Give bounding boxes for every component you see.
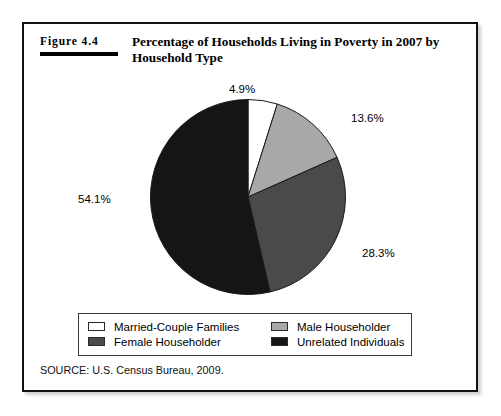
- legend-label: Male Householder: [297, 321, 390, 333]
- figure-number: Figure 4.4: [40, 35, 132, 47]
- legend-swatch-icon: [88, 322, 105, 331]
- figure-number-block: Figure 4.4: [40, 34, 132, 56]
- legend-swatch-icon: [271, 322, 288, 331]
- legend-item-married-couple-families[interactable]: Married-Couple Families: [88, 321, 271, 333]
- pie-svg: [150, 99, 346, 295]
- legend-label: Unrelated Individuals: [297, 336, 404, 348]
- figure-container: Figure 4.4 Percentage of Households Livi…: [22, 22, 478, 392]
- pie-chart: [150, 99, 346, 295]
- pie-graphic: [150, 99, 346, 295]
- legend-row: Married-Couple Families Male Householder: [88, 319, 402, 334]
- pie-label-female-householder: 28.3%: [362, 247, 395, 259]
- chart-area: 4.9% 13.6% 28.3% 54.1%: [24, 74, 476, 296]
- pie-label-male-householder: 13.6%: [351, 112, 384, 124]
- figure-rule: [40, 52, 118, 56]
- legend-swatch-icon: [88, 337, 105, 346]
- pie-label-married-couple-families: 4.9%: [229, 83, 255, 95]
- legend-item-female-householder[interactable]: Female Householder: [88, 336, 271, 348]
- chart-legend: Married-Couple Families Male Householder…: [78, 313, 412, 356]
- figure-title-block: Figure 4.4 Percentage of Households Livi…: [40, 34, 464, 66]
- pie-slices: [150, 100, 345, 295]
- page-title: Percentage of Households Living in Pover…: [132, 34, 464, 66]
- legend-label: Married-Couple Families: [114, 321, 239, 333]
- legend-row: Female Householder Unrelated Individuals: [88, 334, 402, 349]
- legend-item-male-householder[interactable]: Male Householder: [271, 321, 402, 333]
- legend-label: Female Householder: [114, 336, 221, 348]
- source-note: SOURCE: U.S. Census Bureau, 2009.: [40, 364, 224, 376]
- legend-item-unrelated-individuals[interactable]: Unrelated Individuals: [271, 336, 404, 348]
- legend-swatch-icon: [271, 337, 288, 346]
- pie-label-unrelated-individuals: 54.1%: [78, 193, 111, 205]
